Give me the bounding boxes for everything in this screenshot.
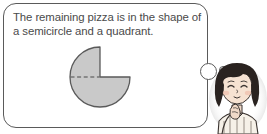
bubble-text: The remaining pizza is in the shape of a… — [13, 10, 203, 38]
pizza-diagram — [62, 40, 142, 118]
thinking-girl-illustration — [206, 55, 267, 134]
girl-cheek-left — [223, 91, 229, 95]
scene: The remaining pizza is in the shape of a… — [0, 0, 267, 134]
girl-cheek-right — [245, 91, 251, 95]
pizza-shape-svg — [62, 40, 142, 118]
girl-svg — [206, 55, 267, 134]
